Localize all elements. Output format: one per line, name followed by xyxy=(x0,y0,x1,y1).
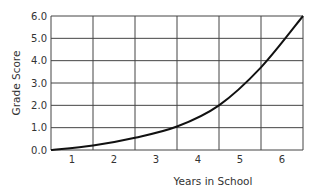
y-axis-ticks: 0.01.02.03.04.05.06.0 xyxy=(31,11,47,156)
x-tick-label: 3 xyxy=(153,154,159,165)
y-tick-label: 1.0 xyxy=(31,122,47,133)
x-tick-label: 6 xyxy=(279,154,285,165)
y-tick-label: 3.0 xyxy=(31,78,47,89)
y-axis-label: Grade Score xyxy=(10,51,22,116)
x-tick-label: 4 xyxy=(195,154,201,165)
y-tick-label: 6.0 xyxy=(31,11,47,22)
y-tick-label: 0.0 xyxy=(31,145,47,156)
x-tick-label: 1 xyxy=(69,154,75,165)
x-tick-label: 2 xyxy=(111,154,117,165)
x-axis-label: Years in School xyxy=(173,175,253,187)
x-axis-ticks: 123456 xyxy=(69,154,285,165)
x-tick-label: 5 xyxy=(237,154,243,165)
y-tick-label: 2.0 xyxy=(31,100,47,111)
y-tick-label: 5.0 xyxy=(31,33,47,44)
y-tick-label: 4.0 xyxy=(31,55,47,66)
line-chart: 0.01.02.03.04.05.06.0 123456 Grade Score… xyxy=(0,0,321,193)
grid-lines xyxy=(51,16,303,150)
